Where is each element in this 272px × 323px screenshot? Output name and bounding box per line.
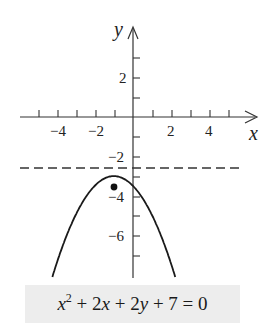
eq-var-x: x	[102, 293, 110, 314]
y-tick-label: −4	[108, 189, 124, 205]
eq-var-x: x	[57, 293, 65, 314]
y-tick-label: −2	[108, 149, 124, 165]
eq-text: + 2	[72, 293, 102, 314]
x-axis-label: x	[248, 122, 258, 144]
x-tick-label: −4	[50, 123, 66, 139]
y-axis-label: y	[112, 18, 123, 41]
eq-text: + 7 = 0	[148, 293, 207, 314]
x-tick-label: −2	[88, 123, 104, 139]
equation-caption: x2 + 2x + 2y + 7 = 0	[25, 285, 240, 323]
x-axis: −4 −2 2 4 x	[20, 110, 258, 144]
focus-point	[111, 184, 118, 191]
x-tick-label: 2	[167, 123, 175, 139]
eq-text: + 2	[110, 293, 140, 314]
y-ticks	[133, 58, 140, 256]
chart-figure: −4 −2 2 4 x 2 −2 −4	[0, 0, 272, 323]
y-axis: 2 −2 −4 −6 y	[108, 18, 140, 278]
eq-var-y: y	[140, 293, 148, 314]
chart-canvas: −4 −2 2 4 x 2 −2 −4	[0, 0, 272, 323]
y-tick-label: −6	[108, 228, 124, 244]
x-ticks	[39, 110, 229, 117]
x-tick-label: 4	[205, 123, 213, 139]
y-tick-label: 2	[119, 70, 127, 86]
